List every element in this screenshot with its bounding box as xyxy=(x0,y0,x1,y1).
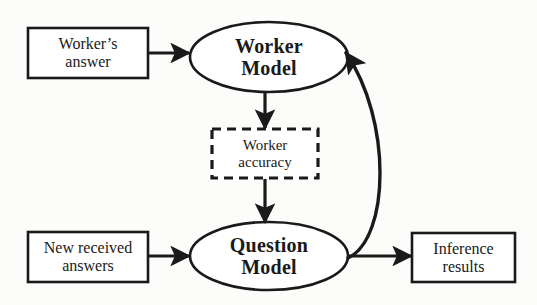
edge-question-model-to-worker-model-feedback xyxy=(346,53,380,258)
node-question-model[interactable] xyxy=(190,222,348,290)
node-inference-results[interactable] xyxy=(412,233,515,282)
node-worker-accuracy[interactable] xyxy=(212,129,318,178)
node-new-answers[interactable] xyxy=(28,232,148,282)
diagram-canvas: Worker’s answer Worker Model Worker accu… xyxy=(0,0,537,305)
node-worker-answer[interactable] xyxy=(28,28,148,78)
node-worker-model[interactable] xyxy=(190,22,348,92)
